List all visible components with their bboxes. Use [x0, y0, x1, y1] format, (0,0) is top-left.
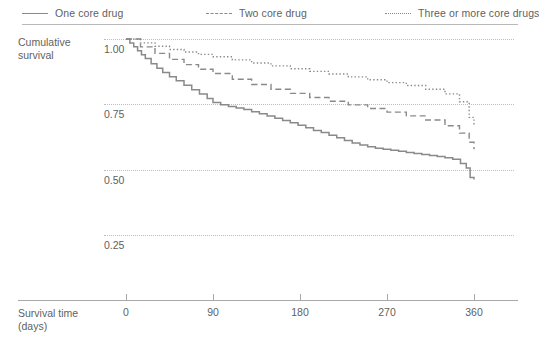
- curve-dashed: [126, 39, 474, 149]
- curve-dotted: [126, 39, 474, 126]
- curve-solid: [126, 39, 474, 180]
